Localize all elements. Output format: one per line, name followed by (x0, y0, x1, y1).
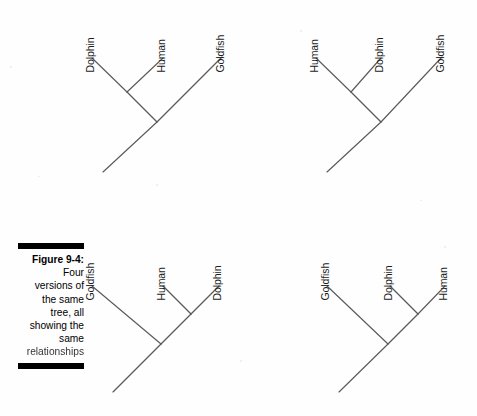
taxon-label-human: Human (156, 267, 167, 300)
tree-top-right: Human Dolphin Goldfish (240, 0, 477, 208)
branch-leaf-1 (92, 58, 127, 92)
caption-line-4: tree, all (18, 306, 84, 319)
tree-bottom-right-lines (240, 230, 477, 416)
tree-top-left: Dolphin Human Goldfish (0, 0, 240, 208)
tree-top-left-lines (0, 0, 240, 208)
taxon-label-dolphin: Dolphin (212, 266, 223, 301)
branch-leaf-2 (390, 286, 418, 314)
branch-root-tail (103, 122, 157, 172)
taxon-label-goldfish: Goldfish (215, 35, 226, 73)
taxon-label-dolphin: Dolphin (383, 266, 394, 301)
branch-internal (127, 92, 157, 122)
figure-caption-label: Figure 9-4: (32, 254, 84, 265)
tree-top-right-lines (240, 0, 477, 208)
branch-internal (388, 314, 418, 344)
taxon-label-goldfish: Goldfish (320, 263, 331, 301)
caption-line-6: same (18, 332, 84, 345)
taxon-label-dolphin: Dolphin (374, 38, 385, 73)
branch-leaf-3 (157, 57, 222, 122)
caption-line-5: showing the (18, 319, 84, 332)
caption-line-7: relationships (18, 345, 84, 358)
taxon-label-human: Human (438, 267, 449, 300)
taxon-label-human: Human (156, 39, 167, 72)
branch-leaf-1 (327, 286, 388, 344)
branch-root-tail (327, 122, 381, 172)
taxon-label-goldfish: Goldfish (85, 263, 96, 301)
branch-internal (161, 314, 191, 344)
branch-internal (351, 92, 381, 122)
branch-root-tail (113, 344, 161, 392)
caption-line-3: the same (18, 293, 84, 306)
branch-leaf-2 (163, 286, 191, 314)
figure-container: Dolphin Human Goldfish Human Dolphin Gol… (0, 0, 477, 416)
figure-caption-text: Figure 9-4: Four versions of the same tr… (18, 249, 84, 361)
tree-bottom-right: Goldfish Dolphin Human (240, 230, 477, 416)
caption-rule-bottom (18, 363, 84, 369)
caption-line-1: Four (18, 266, 84, 279)
branch-leaf-1 (92, 286, 161, 344)
figure-caption-block: Figure 9-4: Four versions of the same tr… (18, 243, 84, 369)
branch-root-tail (339, 344, 388, 392)
taxon-label-human: Human (309, 39, 320, 72)
taxon-label-dolphin: Dolphin (85, 38, 96, 73)
taxon-label-goldfish: Goldfish (435, 35, 446, 73)
branch-leaf-1 (316, 58, 351, 92)
caption-line-2: versions of (18, 279, 84, 292)
